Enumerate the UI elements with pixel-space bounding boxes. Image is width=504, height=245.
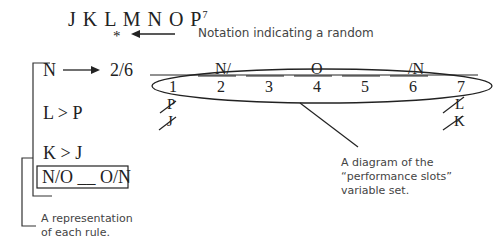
slot-4: 4	[313, 78, 321, 96]
slot-6: 6	[409, 78, 417, 96]
slot-2: 2	[217, 78, 225, 96]
slot-3: 3	[265, 78, 273, 96]
slot-7-excluded-k: K	[454, 113, 465, 130]
rule-k-j: K > J	[43, 143, 82, 164]
slots-note-line3: variable set.	[341, 184, 409, 197]
rule-n-o-block: N/O __ O/N	[42, 167, 131, 188]
rules-note-line1: A representation	[41, 212, 133, 225]
slots-note-line2: “performance slots”	[341, 170, 452, 183]
slot-5: 5	[361, 78, 369, 96]
rule-n-left: N	[43, 60, 56, 81]
random-note: Notation indicating a random	[198, 26, 374, 40]
slot-2-above: N/	[215, 60, 231, 78]
slot-1: 1	[169, 78, 177, 96]
rule-n-right: 2/6	[110, 60, 133, 81]
rules-note-line2: of each rule.	[41, 226, 110, 239]
slot-1-excluded-p: P	[167, 96, 175, 113]
variable-letters: J K L M N O P7	[68, 8, 209, 31]
rule-l-p: L > P	[43, 103, 83, 124]
slot-1-excluded-j: J	[167, 113, 173, 130]
slot-7: 7	[457, 78, 465, 96]
slot-7-excluded-l: L	[455, 96, 464, 113]
letters-text: J K L M N O P	[68, 8, 203, 30]
slots-note-line1: A diagram of the	[341, 156, 433, 169]
slot-4-above: O	[311, 60, 323, 78]
variable-count: 7	[203, 9, 209, 20]
slot-6-above: /N	[408, 60, 424, 78]
random-asterisk: *	[113, 28, 121, 45]
